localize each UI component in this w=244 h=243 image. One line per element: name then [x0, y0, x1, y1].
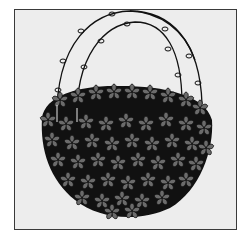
handle-wraps — [55, 12, 201, 92]
flower-basket-illustration — [0, 0, 244, 243]
